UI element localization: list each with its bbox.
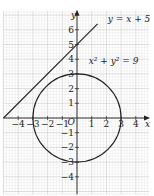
y-tick-label: 2 — [68, 84, 74, 94]
y-tick-label: 1 — [68, 98, 74, 108]
x-tick-label: −2 — [41, 119, 54, 129]
y-tick-label: −2 — [61, 142, 74, 152]
grid — [4, 11, 150, 195]
y-tick-label: −1 — [61, 128, 74, 138]
x-tick-label: 1 — [89, 119, 95, 129]
y-tick-label: 6 — [68, 25, 74, 35]
equation-labels: y = x + 5x² + y² = 9 — [89, 14, 151, 65]
origin-label: O — [68, 117, 76, 127]
y-axis-label: y — [70, 10, 77, 20]
x-tick-label: 2 — [104, 119, 110, 129]
x-tick-label: 4 — [133, 119, 139, 129]
coordinate-plot: xy −4−3−2−11234654321−1−2−3−4O y = x + 5… — [0, 0, 154, 196]
line-equation-label: y = x + 5 — [107, 14, 151, 24]
x-axis-label: x — [145, 119, 150, 129]
circle-equation-label: x² + y² = 9 — [89, 56, 139, 66]
y-tick-label: 4 — [68, 54, 74, 64]
y-tick-label: −4 — [61, 172, 75, 182]
axes: xy — [4, 10, 151, 195]
x-tick-label: −4 — [12, 119, 26, 129]
